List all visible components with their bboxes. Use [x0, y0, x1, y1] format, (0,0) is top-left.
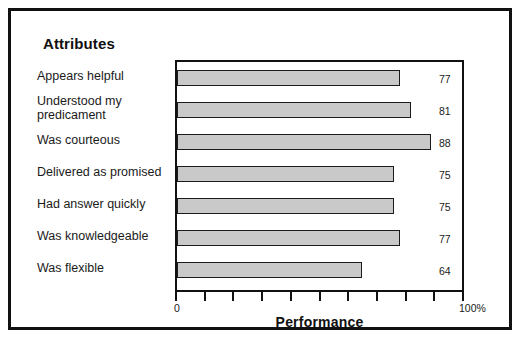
bar-value-label: 88 [439, 137, 451, 149]
x-axis-tick [347, 292, 349, 301]
x-axis-title: Performance [175, 314, 464, 330]
x-axis-tick [405, 292, 407, 301]
bar [177, 70, 400, 86]
bar [177, 166, 394, 182]
category-label: Delivered as promised [37, 165, 173, 179]
x-axis-tick [204, 292, 206, 301]
bar-value-label: 75 [439, 169, 451, 181]
category-label: Understood my predicament [37, 94, 173, 122]
bar [177, 102, 411, 118]
x-axis-tick [433, 292, 435, 301]
bar-value-label: 81 [439, 105, 451, 117]
x-axis-ticks [175, 292, 464, 302]
x-axis-tick [376, 292, 378, 301]
category-label: Had answer quickly [37, 197, 173, 211]
x-axis-tick [319, 292, 321, 301]
bar-value-label: 75 [439, 201, 451, 213]
x-axis-min-tick-label: 0 [174, 302, 180, 314]
category-label: Was courteous [37, 133, 173, 147]
category-label: Was flexible [37, 261, 173, 275]
x-axis-tick [175, 292, 177, 301]
bar-value-label: 77 [439, 233, 451, 245]
category-axis: Appears helpfulUnderstood my predicament… [37, 60, 173, 292]
x-axis-tick [232, 292, 234, 301]
bar [177, 262, 362, 278]
bar [177, 230, 400, 246]
bar [177, 134, 431, 150]
x-axis-max-tick-label: 100% [459, 302, 486, 314]
chart-figure: Attributes Appears helpfulUnderstood my … [8, 8, 512, 330]
plot-area: 77818875757764 [175, 60, 464, 292]
x-axis-tick [290, 292, 292, 301]
bars-layer: 77818875757764 [177, 62, 462, 290]
x-axis-tick [261, 292, 263, 301]
bar [177, 198, 394, 214]
category-label: Appears helpful [37, 69, 173, 83]
category-label: Was knowledgeable [37, 229, 173, 243]
bar-value-label: 77 [439, 73, 451, 85]
page-title: Attributes [43, 35, 115, 52]
x-axis-tick [462, 292, 464, 301]
bar-value-label: 64 [439, 265, 451, 277]
